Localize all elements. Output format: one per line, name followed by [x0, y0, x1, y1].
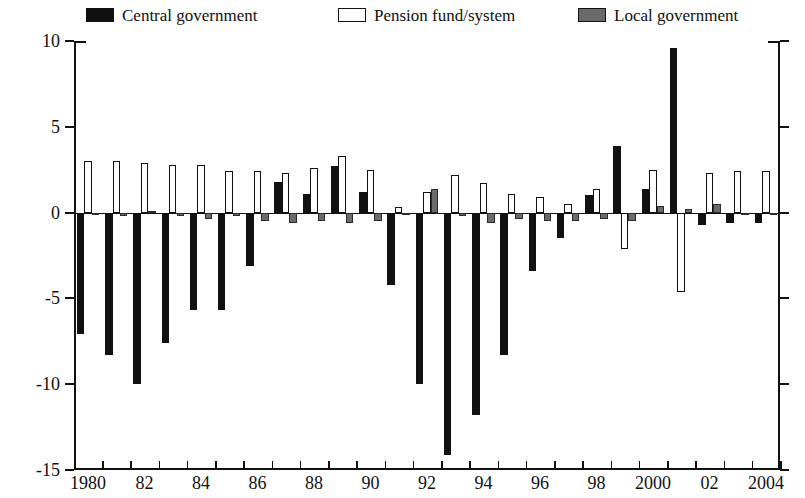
bar-pension — [84, 161, 91, 212]
bar-local — [177, 213, 184, 216]
bar-group — [74, 41, 102, 470]
legend-item-local-government: Local government — [578, 4, 738, 26]
legend-item-pension-fund: Pension fund/system — [338, 4, 515, 26]
x-axis-label: 94 — [474, 474, 492, 492]
bar-local — [572, 213, 579, 222]
x-axis-label: 98 — [587, 474, 605, 492]
y-tick — [65, 297, 74, 299]
bar-central — [331, 166, 338, 212]
bar-local — [628, 213, 635, 222]
bar-local — [515, 213, 522, 220]
bar-group — [300, 41, 328, 470]
bar-central — [585, 195, 592, 212]
bar-group — [752, 41, 780, 470]
bar-local — [657, 206, 664, 213]
bar-pension — [451, 175, 458, 213]
y-tick-right — [780, 383, 789, 385]
legend-swatch-central-icon — [86, 8, 114, 22]
y-tick — [65, 212, 74, 214]
legend-item-central-government: Central government — [86, 4, 258, 26]
x-axis-label: 88 — [305, 474, 323, 492]
bar-central — [218, 213, 225, 311]
bar-central — [359, 192, 366, 213]
bar-local — [600, 213, 607, 220]
bar-pension — [621, 213, 628, 249]
bar-central — [472, 213, 479, 415]
y-tick-right — [780, 126, 789, 128]
x-axis-label: 82 — [136, 474, 154, 492]
bar-central — [77, 213, 84, 335]
y-tick — [65, 40, 74, 42]
bar-group — [554, 41, 582, 470]
bar-local — [713, 204, 720, 213]
x-axis-label: 84 — [192, 474, 210, 492]
bar-central — [670, 48, 677, 213]
bar-pension — [480, 183, 487, 212]
bar-group — [187, 41, 215, 470]
bar-pension — [734, 171, 741, 212]
bar-local — [233, 213, 240, 216]
bar-central — [755, 213, 762, 223]
plot-area: 1050-5-10-15 198082848688909294969820000… — [74, 41, 780, 470]
bar-local — [120, 213, 127, 216]
legend-swatch-local-icon — [578, 8, 606, 22]
x-axis-label: 96 — [531, 474, 549, 492]
bar-pension — [536, 197, 543, 212]
y-axis-label: -15 — [36, 461, 60, 479]
bar-pension — [395, 207, 402, 212]
bar-group — [441, 41, 469, 470]
bar-local — [346, 213, 353, 223]
bar-central — [387, 213, 394, 285]
bar-local — [318, 213, 325, 222]
bar-group — [385, 41, 413, 470]
bar-pension — [254, 171, 261, 212]
bar-central — [529, 213, 536, 271]
bar-central — [416, 213, 423, 385]
bar-local — [148, 211, 155, 213]
x-axis-label: 92 — [418, 474, 436, 492]
y-tick — [65, 469, 74, 471]
bar-pension — [508, 194, 515, 213]
bar-group — [526, 41, 554, 470]
bar-central — [613, 146, 620, 213]
bar-pension — [197, 165, 204, 213]
y-axis-label: 0 — [51, 204, 60, 222]
chart-figure: Central government Pension fund/system L… — [0, 0, 805, 498]
bar-local — [205, 213, 212, 220]
bar-central — [105, 213, 112, 355]
bar-pension — [225, 171, 232, 212]
bar-group — [130, 41, 158, 470]
bar-central — [303, 194, 310, 213]
chart-legend: Central government Pension fund/system L… — [0, 4, 805, 30]
bar-central — [557, 213, 564, 239]
bar-pension — [706, 173, 713, 212]
y-axis-label: -10 — [36, 375, 60, 393]
bar-central — [642, 189, 649, 213]
bar-central — [500, 213, 507, 355]
bar-local — [92, 213, 99, 215]
bar-central — [274, 182, 281, 213]
bar-group — [639, 41, 667, 470]
bar-central — [698, 213, 705, 225]
bar-pension — [367, 170, 374, 213]
bar-central — [162, 213, 169, 343]
bar-central — [444, 213, 451, 455]
y-tick-right — [780, 212, 789, 214]
bar-local — [374, 213, 381, 222]
bar-group — [667, 41, 695, 470]
bar-local — [459, 213, 466, 216]
bar-group — [328, 41, 356, 470]
bar-pension — [564, 204, 571, 213]
y-tick — [65, 383, 74, 385]
bar-pension — [762, 171, 769, 212]
bar-central — [133, 213, 140, 385]
bar-local — [544, 213, 551, 222]
bar-pension — [338, 156, 345, 213]
x-axis-label: 86 — [249, 474, 267, 492]
x-axis-label: 90 — [362, 474, 380, 492]
y-axis-label: 5 — [51, 118, 60, 136]
bar-group — [102, 41, 130, 470]
y-axis-label: -5 — [45, 289, 60, 307]
bar-group — [243, 41, 271, 470]
bar-group — [498, 41, 526, 470]
